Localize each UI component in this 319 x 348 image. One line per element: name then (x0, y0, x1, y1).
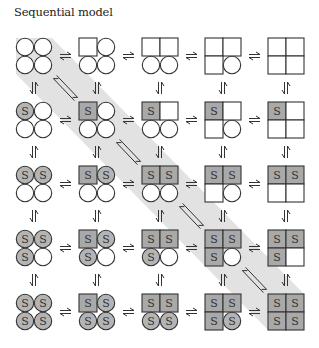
substrate-label: S (84, 251, 92, 264)
substrate-label: S (21, 105, 29, 118)
substrate-label: S (102, 297, 110, 310)
molecule-r4-c2: SSSS (142, 294, 178, 330)
equilibrium-arrow-vertical (219, 82, 227, 94)
r-state-subunit (286, 120, 304, 138)
r-state-subunit (160, 102, 178, 120)
t-state-subunit (16, 56, 33, 73)
r-state-subunit (223, 102, 241, 120)
t-state-subunit (79, 184, 96, 201)
molecule-r3-c2: SSS (142, 230, 178, 266)
r-state-subunit (286, 102, 304, 120)
substrate-label: S (210, 169, 218, 182)
molecule-r3-c4: SSS (268, 230, 304, 266)
t-state-subunit (79, 56, 96, 73)
equilibrium-arrow-vertical (93, 210, 101, 222)
substrate-label: S (102, 169, 110, 182)
substrate-label: S (147, 251, 155, 264)
molecule-r0-c3 (205, 38, 241, 74)
substrate-label: S (210, 105, 218, 118)
equilibrium-arrow-horizontal (60, 244, 71, 252)
substrate-label: S (39, 169, 47, 182)
r-state-subunit (205, 184, 223, 202)
t-state-subunit (97, 248, 114, 265)
r-state-subunit (205, 120, 223, 138)
substrate-label: S (21, 169, 29, 182)
r-state-subunit (286, 38, 304, 56)
equilibrium-arrow-horizontal (249, 116, 260, 124)
t-state-subunit (97, 120, 114, 137)
equilibrium-arrow-horizontal (60, 308, 71, 316)
substrate-label: S (39, 233, 47, 246)
substrate-label: S (291, 233, 299, 246)
equilibrium-arrow-horizontal (249, 180, 260, 188)
r-state-subunit (286, 184, 304, 202)
molecule-r4-c3: SSSS (205, 294, 241, 330)
substrate-label: S (210, 315, 218, 328)
molecule-r4-c0: SSSS (16, 294, 51, 329)
equilibrium-arrow-horizontal (123, 244, 134, 252)
t-state-subunit (223, 56, 240, 73)
equilibrium-arrow-horizontal (186, 116, 197, 124)
molecule-r2-c3: SS (205, 166, 241, 202)
substrate-label: S (21, 297, 29, 310)
substrate-label: S (291, 169, 299, 182)
substrate-label: S (147, 105, 155, 118)
molecule-r0-c4 (268, 38, 304, 74)
t-state-subunit (34, 120, 51, 137)
r-state-subunit (205, 38, 223, 56)
equilibrium-arrow-horizontal (186, 308, 197, 316)
r-state-subunit (160, 38, 178, 56)
t-state-subunit (142, 56, 159, 73)
substrate-label: S (84, 105, 92, 118)
substrate-label: S (21, 315, 29, 328)
substrate-label: S (273, 169, 281, 182)
t-state-subunit (16, 184, 33, 201)
molecule-r4-c1: SSSS (79, 294, 115, 330)
t-state-subunit (34, 38, 51, 55)
substrate-label: S (147, 169, 155, 182)
substrate-label: S (147, 233, 155, 246)
molecule-r3-c1: SSS (79, 230, 115, 266)
r-state-subunit (268, 38, 286, 56)
t-state-subunit (223, 248, 240, 265)
substrate-label: S (291, 297, 299, 310)
t-state-subunit (223, 184, 240, 201)
t-state-subunit (34, 184, 51, 201)
molecule-r4-c4: SSSS (268, 294, 304, 330)
substrate-label: S (39, 297, 47, 310)
t-state-subunit (97, 56, 114, 73)
r-state-subunit (205, 56, 223, 74)
r-state-subunit (268, 120, 286, 138)
t-state-subunit (16, 38, 33, 55)
r-state-subunit (286, 56, 304, 74)
t-state-subunit (160, 248, 177, 265)
substrate-label: S (84, 169, 92, 182)
substrate-label: S (84, 233, 92, 246)
equilibrium-arrow-horizontal (186, 52, 197, 60)
r-state-subunit (268, 56, 286, 74)
t-state-subunit (160, 120, 177, 137)
molecule-r1-c2: S (142, 102, 178, 138)
molecule-r3-c0: SSS (16, 230, 51, 265)
r-state-subunit (286, 248, 304, 266)
t-state-subunit (79, 120, 96, 137)
sequential-model-diagram: SSSSSSSSSSSSSSSSSSSSSSSSSSSSSSSSSSSSSSSS… (0, 0, 319, 348)
substrate-label: S (165, 315, 173, 328)
equilibrium-arrow-vertical (219, 146, 227, 158)
substrate-label: S (39, 315, 47, 328)
substrate-label: S (84, 297, 92, 310)
t-state-subunit (97, 38, 114, 55)
substrate-label: S (102, 315, 110, 328)
substrate-label: S (147, 297, 155, 310)
equilibrium-arrow-horizontal (123, 52, 134, 60)
equilibrium-arrow-vertical (282, 210, 290, 222)
t-state-subunit (97, 184, 114, 201)
substrate-label: S (228, 297, 236, 310)
substrate-label: S (147, 315, 155, 328)
substrate-label: S (291, 315, 299, 328)
t-state-subunit (16, 120, 33, 137)
substrate-label: S (165, 169, 173, 182)
substrate-label: S (273, 315, 281, 328)
molecule-r1-c3: S (205, 102, 241, 138)
molecule-r3-c3: SSS (205, 230, 241, 266)
